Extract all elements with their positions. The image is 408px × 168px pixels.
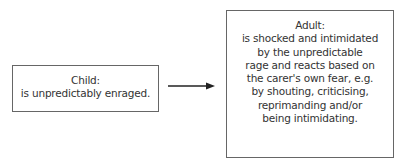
adult-text-line: reprimanding and/or bbox=[227, 99, 393, 112]
adult-text-line: by the unpredictable bbox=[227, 46, 393, 59]
right-arrow-icon bbox=[168, 80, 216, 92]
adult-box: Adult: is shocked and intimidated by the… bbox=[226, 10, 394, 158]
adult-text-line: is shocked and intimidated bbox=[227, 32, 393, 45]
adult-text-line: rage and reacts based on bbox=[227, 59, 393, 72]
child-title: Child: bbox=[13, 74, 158, 87]
child-box: Child: is unpredictably enraged. bbox=[12, 65, 159, 112]
adult-text-line: being intimidating. bbox=[227, 112, 393, 125]
child-text-line: is unpredictably enraged. bbox=[13, 87, 158, 100]
adult-text-line: the carer's own fear, e.g. bbox=[227, 72, 393, 85]
adult-title: Adult: bbox=[227, 19, 393, 32]
adult-text-line: by shouting, criticising, bbox=[227, 85, 393, 98]
